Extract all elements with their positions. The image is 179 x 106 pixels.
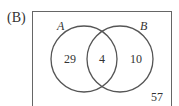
outside-count: 57 [151,90,163,104]
venn-diagram: A B 29 4 10 57 [0,0,179,106]
set-b-label: B [140,19,148,33]
set-a-label: A [56,19,65,33]
set-a-circle [51,26,117,92]
b-only-count: 10 [130,52,142,66]
set-b-circle [87,26,153,92]
a-only-count: 29 [64,52,76,66]
intersection-count: 4 [99,52,105,66]
